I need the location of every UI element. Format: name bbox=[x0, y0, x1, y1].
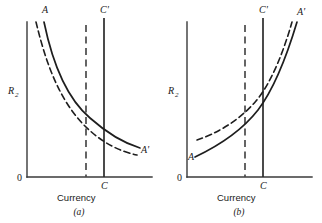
panel-a-y-axis-label-text: R bbox=[7, 85, 14, 96]
panel-a-label-C: C bbox=[101, 180, 108, 191]
panel-b-curve-solid bbox=[195, 22, 297, 157]
panel-a-label-A-prime: A' bbox=[140, 144, 150, 155]
panel-a-curve-solid bbox=[44, 22, 140, 148]
panel-a-x-axis-title: Currency bbox=[57, 192, 96, 203]
panel-b-x-axis-title: Currency bbox=[217, 192, 256, 203]
panel-b-origin-label: 0 bbox=[177, 172, 182, 183]
panel-b-y-axis-label: R 2 bbox=[167, 85, 179, 99]
panel-a: A A' C' C 0 R 2 Currency (a) bbox=[7, 4, 152, 218]
panel-b-label-C: C bbox=[260, 180, 267, 191]
panel-a-origin-label: 0 bbox=[17, 172, 22, 183]
panel-a-y-axis-label: R 2 bbox=[7, 85, 19, 99]
panel-b-tag: (b) bbox=[233, 207, 244, 218]
panel-a-tag: (a) bbox=[73, 207, 84, 218]
panel-a-y-axis-label-subscript: 2 bbox=[15, 91, 19, 99]
panel-b-y-axis-label-text: R bbox=[167, 85, 174, 96]
panel-b-label-A: A bbox=[187, 151, 195, 162]
panel-b: A A' C' C 0 R 2 Currency (b) bbox=[167, 4, 312, 218]
panel-b-label-A-prime: A' bbox=[296, 6, 306, 17]
two-panel-chart: A A' C' C 0 R 2 Currency (a) A A' C' C 0… bbox=[0, 0, 322, 223]
figure-container: A A' C' C 0 R 2 Currency (a) A A' C' C 0… bbox=[0, 0, 322, 223]
panel-b-y-axis-label-subscript: 2 bbox=[175, 91, 179, 99]
panel-a-label-C-prime: C' bbox=[100, 4, 110, 15]
panel-a-label-A: A bbox=[41, 4, 49, 15]
panel-b-label-C-prime: C' bbox=[259, 4, 269, 15]
